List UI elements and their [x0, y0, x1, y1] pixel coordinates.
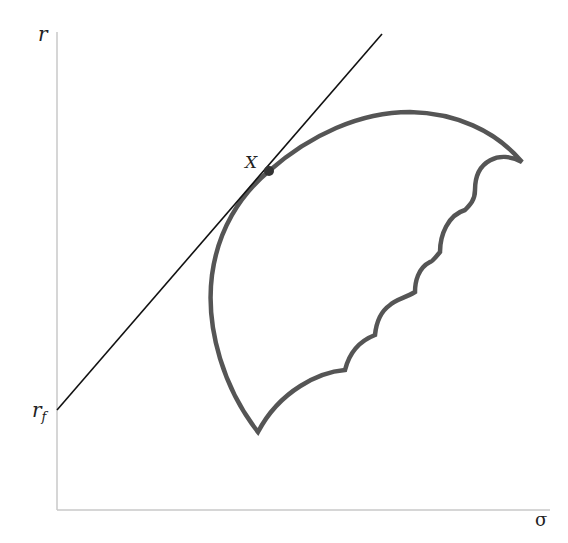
y-axis-label: r — [38, 24, 48, 44]
risk-free-rate-sub: f — [42, 409, 47, 424]
tangency-point-label: X — [245, 154, 257, 171]
tangency-point — [264, 166, 274, 176]
risk-free-rate-main: r — [32, 398, 42, 422]
diagram-canvas: r rf σ X — [0, 0, 568, 543]
x-axis-label: σ — [535, 511, 547, 529]
feasible-set-boundary — [211, 112, 522, 432]
risk-free-rate-label: rf — [32, 400, 46, 423]
